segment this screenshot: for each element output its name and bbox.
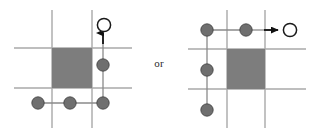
lattice-path-figure: or [0, 0, 318, 134]
filled-node [64, 97, 76, 109]
filled-node [201, 64, 213, 76]
shaded-square [52, 48, 92, 88]
shaded-square [227, 49, 265, 89]
filled-node [240, 24, 252, 36]
or-connector-label: or [146, 56, 172, 70]
open-node [283, 23, 296, 36]
open-node [97, 18, 110, 31]
filled-node [97, 97, 109, 109]
filled-node [32, 97, 44, 109]
filled-node [97, 59, 109, 71]
filled-node [201, 24, 213, 36]
filled-node [201, 104, 213, 116]
